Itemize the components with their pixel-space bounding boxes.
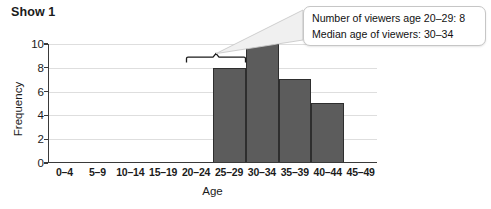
y-axis-title: Frequency xyxy=(12,44,24,174)
bar-slot-20-24 xyxy=(180,44,213,162)
bar-30-34 xyxy=(246,44,279,162)
x-tick-label-25-29: 25–29 xyxy=(213,166,246,178)
bar-slot-25-29 xyxy=(213,44,246,162)
x-tick-label-45-49: 45–49 xyxy=(344,166,377,178)
y-tick-label-0: 0 xyxy=(4,157,44,169)
bar-slot-30-34 xyxy=(246,44,279,162)
bar-slot-0-4 xyxy=(49,44,82,162)
bar-slot-35-39 xyxy=(279,44,312,162)
bar-35-39 xyxy=(279,79,312,162)
bar-slot-40-44 xyxy=(311,44,344,162)
x-tick-label-20-24: 20–24 xyxy=(180,166,213,178)
bar-slot-45-49 xyxy=(344,44,377,162)
callout-line-2: Median age of viewers: 30–34 xyxy=(312,27,478,43)
bar-slot-5-9 xyxy=(82,44,115,162)
callout-box: Number of viewers age 20–29: 8 Median ag… xyxy=(303,6,486,46)
y-tick-label-2: 2 xyxy=(4,133,44,145)
bar-40-44 xyxy=(311,103,344,162)
y-tick-label-10: 10 xyxy=(4,38,44,50)
bar-slot-15-19 xyxy=(147,44,180,162)
x-tick-label-0-4: 0–4 xyxy=(48,166,81,178)
x-tick-label-5-9: 5–9 xyxy=(81,166,114,178)
bars-layer xyxy=(49,44,377,162)
x-tick-label-35-39: 35–39 xyxy=(278,166,311,178)
bar-25-29 xyxy=(213,68,246,162)
y-axis: 10 8 6 4 2 0 Frequency xyxy=(0,0,44,209)
x-tick-label-10-14: 10–14 xyxy=(114,166,147,178)
x-axis-labels: 0–4 5–9 10–14 15–19 20–24 25–29 30–34 35… xyxy=(48,166,377,178)
y-tick-label-6: 6 xyxy=(4,86,44,98)
callout-line-1: Number of viewers age 20–29: 8 xyxy=(312,11,478,27)
x-tick-label-15-19: 15–19 xyxy=(147,166,180,178)
x-tick-label-40-44: 40–44 xyxy=(311,166,344,178)
x-axis-title: Age xyxy=(48,185,377,197)
bar-slot-10-14 xyxy=(115,44,148,162)
x-tick-label-30-34: 30–34 xyxy=(245,166,278,178)
y-tick-label-8: 8 xyxy=(4,62,44,74)
chart-figure: Show 1 10 8 6 4 2 0 Frequency xyxy=(0,0,491,209)
plot-area xyxy=(48,44,377,163)
y-tick-label-4: 4 xyxy=(4,109,44,121)
